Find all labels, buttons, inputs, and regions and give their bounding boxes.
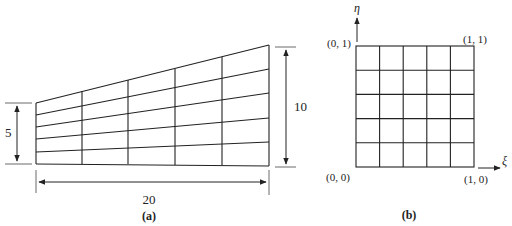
left-height-label: 5 (5, 125, 12, 140)
eta-label: η (354, 1, 360, 15)
corner-label-bottom-right: (1, 0) (464, 173, 488, 186)
corner-label-top-right: (1, 1) (463, 33, 487, 46)
mesh-hline (36, 142, 269, 152)
dimension-right-height: 10 (275, 47, 307, 167)
panel-a-mesh (36, 45, 269, 166)
dimension-width: 20 (36, 170, 269, 207)
panel-b-grid (356, 46, 474, 167)
dimension-left-height: 5 (5, 103, 32, 164)
width-label: 20 (143, 192, 156, 207)
corner-label-top-left: (0, 1) (327, 37, 351, 50)
right-height-label: 10 (294, 99, 307, 114)
grid-border (356, 46, 474, 167)
xi-label: ξ (502, 154, 508, 168)
mesh-hline (36, 118, 269, 139)
figure: 5 10 20 (a) η ξ (0, 1) (1 (0, 0, 512, 226)
corner-label-bottom-left: (0, 0) (326, 171, 350, 184)
mesh-top-edge (36, 45, 269, 103)
xi-axis: ξ (478, 154, 508, 168)
mesh-hline (36, 69, 269, 115)
caption-b: (b) (402, 208, 417, 222)
caption-a: (a) (142, 209, 156, 223)
eta-axis: η (354, 1, 360, 42)
mesh-bottom-edge (36, 164, 269, 166)
mesh-hline (36, 93, 269, 127)
